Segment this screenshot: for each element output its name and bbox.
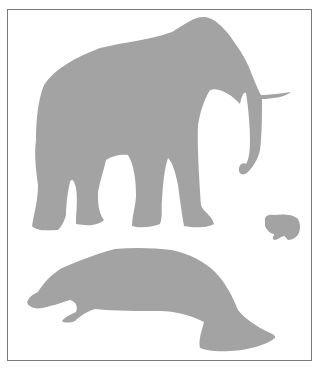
hyrax-silhouette: [265, 214, 300, 240]
manatee-silhouette: [27, 248, 275, 351]
silhouette-illustration: [0, 0, 321, 369]
elephant-silhouette: [32, 17, 291, 230]
